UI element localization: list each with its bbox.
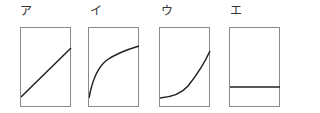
panel-label-u: ウ [161,4,173,18]
graph-panel-i [88,27,139,107]
graph-panel-u [159,27,210,107]
graph-panel-e [229,27,280,107]
convex-curve [160,28,211,108]
graph-panel-a [20,27,71,107]
panel-label-e: エ [230,4,242,18]
panel-label-a: ア [20,4,32,18]
linear-curve [21,28,72,108]
panel-label-i: イ [90,4,102,18]
constant-line [230,28,281,108]
concave-curve [89,28,140,108]
